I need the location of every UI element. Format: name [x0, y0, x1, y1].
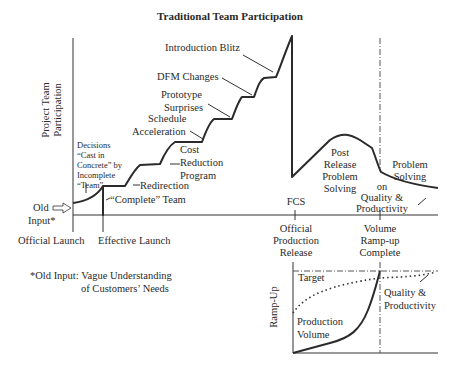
svg-text:Solving: Solving: [324, 183, 357, 194]
redirection-label: Redirection: [140, 180, 190, 191]
complete-team-label: “Complete” Team: [110, 194, 186, 205]
svg-text:Solving: Solving: [394, 171, 427, 182]
svg-text:Release: Release: [324, 159, 357, 170]
prototype-surprises-label: Prototype Surprises: [161, 89, 203, 113]
fcs-label: FCS: [287, 196, 306, 207]
svg-text:Ramp-Up: Ramp-Up: [268, 286, 279, 327]
svg-text:Decisions: Decisions: [77, 140, 111, 150]
svg-text:Complete: Complete: [360, 247, 401, 258]
y-axis-label: Project Team Participation: [40, 82, 63, 137]
svg-text:Concrete” by: Concrete” by: [77, 160, 123, 170]
post-release-label: Post Release Problem Solving: [322, 147, 358, 194]
svg-text:Official: Official: [280, 223, 313, 234]
svg-text:Incomplete: Incomplete: [77, 170, 115, 180]
svg-text:Release: Release: [280, 247, 313, 258]
svg-text:Post: Post: [331, 147, 349, 158]
footnote-line-1: *Old Input: Vague Understanding: [30, 270, 173, 281]
svg-text:Cost: Cost: [180, 144, 199, 155]
schedule-acceleration-label: Schedule Acceleration: [132, 113, 187, 137]
input-label: Input*: [28, 215, 55, 226]
quality-leader: [418, 198, 426, 205]
svg-text:Problem: Problem: [322, 171, 358, 182]
svg-text:Participation: Participation: [52, 82, 63, 136]
quality-inset-leader: [420, 275, 428, 282]
svg-text:Quality &: Quality &: [361, 192, 403, 203]
svg-text:Production: Production: [273, 235, 320, 246]
decisions-annotation: Decisions “Cast in Concrete” by Incomple…: [77, 140, 123, 190]
volume-ramp-up-complete-label: Volume Ramp-up Complete: [360, 223, 401, 258]
svg-text:Schedule: Schedule: [148, 113, 187, 124]
official-launch-label: Official Launch: [18, 235, 85, 246]
diagram-title: Traditional Team Participation: [157, 10, 303, 22]
svg-text:Productivity: Productivity: [356, 203, 409, 214]
ramp-up-axis-label: Ramp-Up: [268, 286, 279, 327]
blitz-leader: [243, 55, 273, 72]
svg-text:Program: Program: [180, 170, 216, 181]
production-label: Production: [297, 316, 344, 327]
production-volume-curve: [293, 271, 380, 353]
effective-launch-label: Effective Launch: [98, 235, 171, 246]
prototype-leader: [208, 104, 230, 117]
quality-inset-label-2: Productivity: [384, 300, 437, 311]
svg-text:Volume: Volume: [364, 223, 397, 234]
svg-text:Surprises: Surprises: [164, 102, 203, 113]
svg-text:Reduction: Reduction: [180, 157, 224, 168]
input-arrow-icon: [53, 203, 71, 213]
introduction-blitz-label: Introduction Blitz: [165, 42, 240, 53]
svg-text:Problem: Problem: [392, 159, 428, 170]
schedule-leader: [190, 131, 203, 139]
dfm-changes-label: DFM Changes: [157, 71, 219, 82]
footnote-line-2: of Customers’ Needs: [81, 283, 169, 294]
svg-text:“Team”: “Team”: [77, 180, 104, 190]
svg-text:Ramp-up: Ramp-up: [360, 235, 399, 246]
svg-text:on: on: [377, 181, 388, 192]
svg-text:Acceleration: Acceleration: [132, 126, 186, 137]
problem-solving-quality-label: Problem Solving on Quality & Productivit…: [356, 159, 428, 214]
svg-text:Project Team: Project Team: [40, 82, 51, 137]
volume-label: Volume: [297, 329, 330, 340]
dfm-leader: [222, 78, 252, 95]
quality-inset-label-1: Quality &: [384, 287, 426, 298]
diagram-canvas: Traditional Team Participation Project T…: [0, 0, 460, 368]
svg-text:“Cast in: “Cast in: [77, 150, 105, 160]
official-production-release-label: Official Production Release: [273, 223, 320, 258]
ramp-up-chart: Ramp-Up Target Production Volume Quality…: [268, 262, 438, 353]
cost-reduction-label: Cost Reduction Program: [180, 144, 224, 181]
svg-text:Prototype: Prototype: [161, 89, 202, 100]
target-label: Target: [298, 272, 325, 283]
old-label: Old: [33, 202, 50, 213]
